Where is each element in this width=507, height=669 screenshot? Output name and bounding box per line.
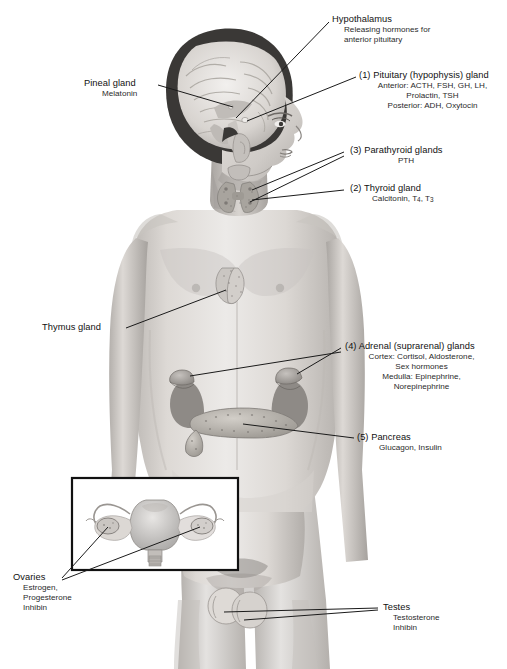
label-pituitary-line3: Posterior: ADH, Oxytocin <box>359 101 506 111</box>
label-ovaries: Ovaries Estrogen, Progesterone Inhibin <box>13 572 72 613</box>
thyroid-calcitonin-text: Calcitonin, T <box>372 194 417 203</box>
label-adrenal-line2: Sex hormones <box>345 362 498 372</box>
label-thyroid-gland: (2) Thyroid gland Calcitonin, T4, T3 <box>350 183 434 204</box>
label-testes-title: Testes <box>383 602 440 613</box>
label-thymus-gland: Thymus gland <box>42 322 101 333</box>
label-adrenal-line4: Norepinephrine <box>345 382 498 392</box>
label-hypothalamus-line2: anterior pituitary <box>332 35 430 45</box>
label-hypothalamus-title: Hypothalamus <box>332 14 430 25</box>
label-parathyroid-line1: PTH <box>350 156 462 166</box>
label-thyroid-hormones: Calcitonin, T4, T3 <box>350 194 434 204</box>
label-pancreas-title: (5) Pancreas <box>357 432 442 443</box>
label-pituitary-line1: Anterior: ACTH, FSH, GH, LH, <box>359 81 506 91</box>
label-pineal-title: Pineal gland <box>84 78 137 89</box>
label-adrenal-line3: Medulla: Epinephrine, <box>345 372 498 382</box>
label-adrenal-title: (4) Adrenal (suprarenal) glands <box>345 341 498 352</box>
label-hypothalamus-line1: Releasing hormones for <box>332 25 430 35</box>
thyroid-mid-text: , T <box>421 194 430 203</box>
female-reproductive-inset <box>72 478 238 570</box>
label-ovaries-line2: Progesterone <box>13 593 72 603</box>
label-testes-line1: Testosterone <box>383 613 440 623</box>
label-pineal-gland: Pineal gland Melatonin <box>84 78 137 99</box>
label-thymus-title: Thymus gland <box>42 322 101 333</box>
label-adrenal-glands: (4) Adrenal (suprarenal) glands Cortex: … <box>345 341 498 392</box>
label-testes: Testes Testosterone Inhibin <box>383 602 440 633</box>
label-ovaries-title: Ovaries <box>13 572 72 583</box>
label-pituitary: (1) Pituitary (hypophysis) gland Anterio… <box>359 70 506 111</box>
label-ovaries-line3: Inhibin <box>13 603 72 613</box>
label-thyroid-title: (2) Thyroid gland <box>350 183 434 194</box>
label-hypothalamus: Hypothalamus Releasing hormones for ante… <box>332 14 430 45</box>
thyroid-t3-subscript: 3 <box>430 196 434 203</box>
label-parathyroid-title: (3) Parathyroid glands <box>350 145 462 156</box>
label-pineal-line1: Melatonin <box>84 89 137 99</box>
label-testes-line2: Inhibin <box>383 623 440 633</box>
label-pituitary-line2: Prolactin, TSH <box>359 91 506 101</box>
label-pituitary-title: (1) Pituitary (hypophysis) gland <box>359 70 506 81</box>
label-adrenal-line1: Cortex: Cortisol, Aldosterone, <box>345 352 498 362</box>
label-pancreas-line1: Glucagon, Insulin <box>357 443 442 453</box>
label-ovaries-line1: Estrogen, <box>13 583 72 593</box>
label-parathyroid-glands: (3) Parathyroid glands PTH <box>350 145 462 166</box>
label-pancreas: (5) Pancreas Glucagon, Insulin <box>357 432 442 453</box>
